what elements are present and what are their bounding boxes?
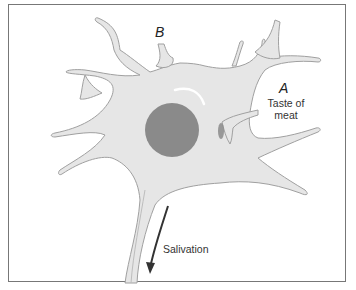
label-taste: Taste of meat: [262, 97, 310, 121]
label-taste-line2: meat: [262, 109, 310, 121]
synapse-a-mark: [218, 123, 224, 139]
label-salivation: Salivation: [163, 243, 209, 255]
label-taste-line1: Taste of: [262, 97, 310, 109]
salivation-arrow: [150, 206, 168, 268]
synapse-left: [80, 75, 102, 99]
label-a: A: [279, 82, 288, 94]
synapse-top-right: [255, 20, 280, 59]
nucleus: [145, 103, 199, 157]
synapse-b: [156, 44, 173, 68]
label-b: B: [155, 26, 164, 38]
